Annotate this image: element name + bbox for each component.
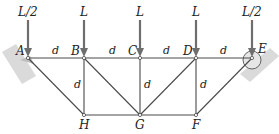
- node-label-c: C: [128, 44, 137, 58]
- truss-diagram: L/2 L L L L/2 A B C D E H G F d d d d d …: [0, 0, 279, 134]
- truss-members: [28, 58, 252, 115]
- load-label-d: L: [191, 5, 200, 19]
- node-label-a: A: [15, 44, 25, 58]
- node-d: [194, 56, 197, 59]
- member-bg: [84, 58, 140, 115]
- node-label-b: B: [70, 44, 80, 58]
- node-label-f: F: [191, 118, 201, 132]
- load-label-b: L: [79, 5, 88, 19]
- dim-label-cd: d: [163, 44, 170, 57]
- dim-label-bh: d: [74, 78, 81, 91]
- node-c: [138, 56, 141, 59]
- dim-label-df: d: [200, 78, 207, 91]
- node-label-h: H: [78, 118, 90, 132]
- node-label-d: D: [182, 44, 193, 58]
- dim-label-ab: d: [52, 44, 59, 57]
- load-label-c: L: [135, 5, 144, 19]
- node-label-e: E: [257, 42, 267, 56]
- load-arrow-a: [24, 20, 32, 57]
- node-h: [82, 113, 85, 116]
- dim-label-de: d: [220, 44, 227, 57]
- dim-label-bc: d: [109, 44, 116, 57]
- load-arrow-b: [80, 20, 88, 57]
- node-label-g: G: [135, 118, 145, 132]
- node-a: [26, 56, 29, 59]
- node-g: [138, 113, 141, 116]
- node-e: [250, 56, 253, 59]
- dim-label-cg: d: [144, 78, 151, 91]
- load-arrow-c: [136, 20, 144, 57]
- node-b: [82, 56, 85, 59]
- load-label-a: L/2: [17, 5, 38, 19]
- load-arrow-d: [192, 20, 200, 57]
- load-label-e: L/2: [241, 5, 262, 19]
- node-f: [194, 113, 197, 116]
